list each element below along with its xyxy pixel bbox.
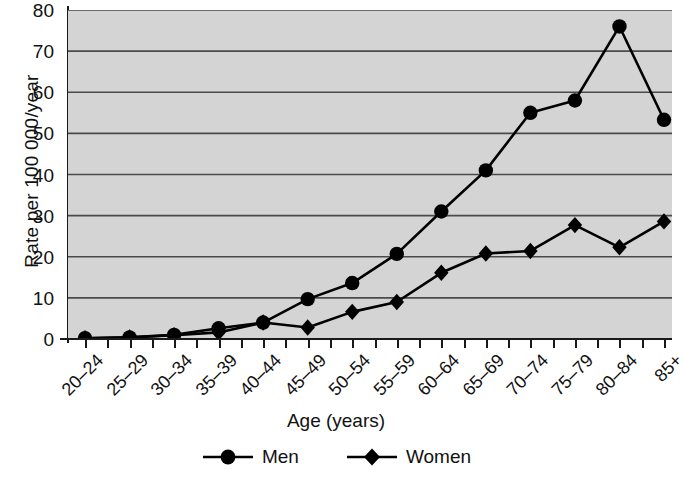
x-tick-mark <box>352 340 354 348</box>
legend-label: Men <box>262 446 299 468</box>
circle-marker-icon <box>221 450 236 465</box>
y-tick-label: 10 <box>10 288 54 307</box>
data-point-women <box>300 319 314 335</box>
data-point-men <box>479 163 493 177</box>
x-tick-mark <box>464 340 466 348</box>
x-tick-mark <box>196 340 198 348</box>
x-tick-mark <box>486 340 488 348</box>
data-point-women <box>479 245 493 261</box>
x-axis-tick-labels: 20–2425–2930–3435–3940–4445–4950–5455–59… <box>0 340 672 402</box>
y-tick-label: 70 <box>10 42 54 61</box>
y-tick-label: 80 <box>10 1 54 20</box>
plot-area <box>68 10 672 339</box>
x-tick-mark <box>508 340 510 348</box>
data-point-men <box>657 113 671 127</box>
x-tick-mark <box>397 340 399 348</box>
data-point-women <box>345 304 359 320</box>
x-tick-mark <box>619 340 621 348</box>
x-tick-mark <box>107 340 109 348</box>
x-tick-mark <box>441 340 443 348</box>
diamond-marker-icon <box>364 448 380 465</box>
y-tick-label: 40 <box>10 165 54 184</box>
x-tick-mark <box>219 340 221 348</box>
x-tick-mark <box>375 340 377 348</box>
plot-svg <box>68 10 672 339</box>
data-point-women <box>612 239 626 255</box>
legend-label: Women <box>406 446 471 468</box>
chart-legend: MenWomen <box>0 446 672 468</box>
x-tick-mark <box>285 340 287 348</box>
series-line-women <box>85 221 664 338</box>
y-tick-label: 20 <box>10 247 54 266</box>
x-axis-title: Age (years) <box>0 410 672 432</box>
x-tick-mark <box>241 340 243 348</box>
circle-marker-icon <box>201 446 255 468</box>
x-tick-mark <box>152 340 154 348</box>
x-tick-mark <box>419 340 421 348</box>
diamond-marker-icon <box>345 446 399 468</box>
x-tick-mark <box>330 340 332 348</box>
data-point-women <box>568 217 582 233</box>
legend-item-men[interactable]: Men <box>201 446 299 468</box>
legend-item-women[interactable]: Women <box>345 446 471 468</box>
data-point-men <box>434 204 448 218</box>
series-line-men <box>85 26 664 338</box>
data-point-men <box>300 292 314 306</box>
data-point-women <box>390 294 404 310</box>
data-point-men <box>345 276 359 290</box>
data-point-women <box>256 314 270 330</box>
x-tick-mark <box>174 340 176 348</box>
x-tick-mark <box>597 340 599 348</box>
data-point-men <box>523 106 537 120</box>
x-tick-mark <box>85 340 87 348</box>
y-tick-label: 30 <box>10 206 54 225</box>
y-tick-label: 60 <box>10 83 54 102</box>
x-tick-mark <box>530 340 532 348</box>
x-tick-mark <box>308 340 310 348</box>
x-tick-mark <box>553 340 555 348</box>
data-point-men <box>568 93 582 107</box>
x-tick-mark <box>575 340 577 348</box>
x-tick-mark <box>130 340 132 348</box>
x-tick-mark <box>642 340 644 348</box>
x-tick-mark <box>263 340 265 348</box>
x-tick-mark <box>664 340 666 348</box>
data-point-men <box>390 247 404 261</box>
data-point-women <box>434 265 448 281</box>
data-point-men <box>612 19 626 33</box>
y-tick-label: 50 <box>10 124 54 143</box>
